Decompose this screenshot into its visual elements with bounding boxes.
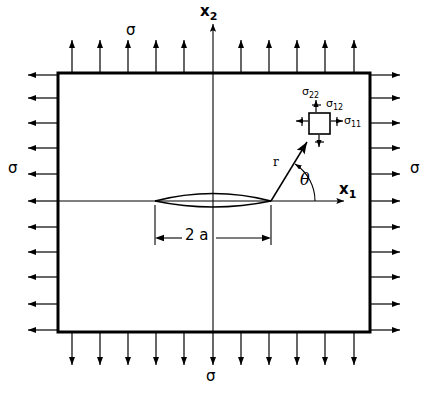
right-remote-stress-label: σ bbox=[410, 161, 420, 176]
right-traction-arrows bbox=[370, 75, 400, 330]
stress-element-square bbox=[309, 113, 330, 134]
left-remote-stress-label: σ bbox=[8, 161, 18, 176]
x1-axis-subscript: 1 bbox=[349, 188, 357, 201]
sigma-22-arrows-lower bbox=[315, 135, 324, 147]
plate-boundary bbox=[58, 73, 370, 332]
left-traction-arrows bbox=[28, 75, 58, 330]
top-remote-stress-label: σ bbox=[126, 23, 136, 38]
x1-axis-label: x1 bbox=[339, 182, 356, 200]
crack-length-label: 2 a bbox=[185, 228, 209, 243]
radius-label: r bbox=[273, 156, 279, 168]
sigma-22-label: σ22 bbox=[302, 86, 319, 100]
diagram-canvas bbox=[0, 0, 433, 394]
sigma-22-arrows bbox=[312, 100, 321, 112]
bottom-remote-stress-label: σ bbox=[206, 369, 216, 384]
crack-tip-stress-diagram: x2 x1 σ σ σ σ σ22 σ12 σ11 r θ 2 a bbox=[0, 0, 433, 394]
sigma-11-label: σ11 bbox=[344, 115, 361, 129]
sigma-22-subscript: 22 bbox=[309, 91, 319, 100]
theta-label: θ bbox=[300, 172, 310, 188]
x2-axis-subscript: 2 bbox=[210, 10, 218, 23]
sigma-11-arrows-left bbox=[296, 117, 308, 126]
sigma-12-subscript: 12 bbox=[333, 103, 343, 112]
sigma-12-label: σ12 bbox=[326, 98, 343, 112]
bottom-traction-arrows bbox=[72, 332, 354, 365]
sigma-11-arrows bbox=[331, 117, 343, 126]
x2-axis-label: x2 bbox=[200, 4, 217, 22]
sigma-11-subscript: 11 bbox=[351, 120, 361, 129]
